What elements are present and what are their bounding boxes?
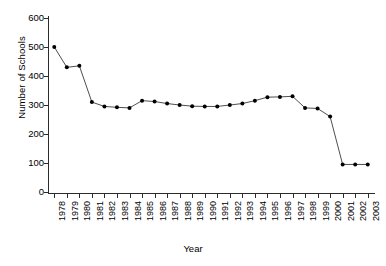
data-point-2002 [353, 162, 357, 166]
data-markers [52, 45, 369, 166]
data-point-1993 [240, 102, 244, 106]
data-point-1989 [190, 104, 194, 108]
data-series-layer [0, 0, 386, 266]
data-point-2001 [341, 162, 345, 166]
data-point-1984 [128, 106, 132, 110]
data-point-1997 [291, 94, 295, 98]
data-point-1986 [153, 100, 157, 104]
data-point-1981 [90, 100, 94, 104]
data-point-2000 [328, 115, 332, 119]
data-line [54, 47, 367, 164]
data-point-1978 [52, 45, 56, 49]
data-point-1982 [102, 104, 106, 108]
data-point-1990 [203, 104, 207, 108]
data-point-1999 [316, 106, 320, 110]
data-point-1985 [140, 99, 144, 103]
x-axis-title: Year [0, 243, 386, 254]
data-point-1980 [77, 64, 81, 68]
data-point-1992 [228, 103, 232, 107]
data-point-1991 [215, 104, 219, 108]
data-point-1988 [178, 103, 182, 107]
data-point-2003 [366, 162, 370, 166]
data-point-1987 [165, 102, 169, 106]
data-point-1995 [265, 95, 269, 99]
data-point-1979 [65, 65, 69, 69]
line-chart-figure: Number of Schools 0100200300400500600 19… [0, 0, 386, 266]
data-point-1994 [253, 99, 257, 103]
data-point-1998 [303, 106, 307, 110]
data-point-1996 [278, 95, 282, 99]
data-point-1983 [115, 105, 119, 109]
